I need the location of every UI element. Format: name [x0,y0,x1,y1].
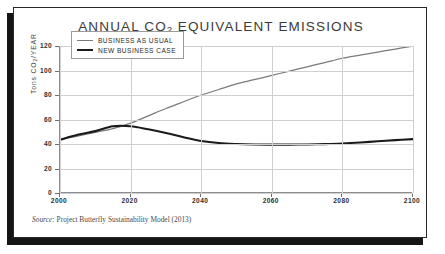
y-tick-label: 20 [26,165,52,172]
legend-item-label: NEW BUSINESS CASE [98,47,176,54]
x-tick-label: 2100 [392,197,432,204]
chart-card: ANNUAL CO2 EQUIVALENT EMISSIONS Tons CO2… [13,7,427,238]
gridline-horizontal [60,169,413,170]
source-note: Source: Project Butterfly Sustainability… [32,215,191,224]
gridline-vertical [60,46,61,193]
source-text: Project Butterfly Sustainability Model (… [57,215,192,224]
legend-swatch-icon [77,49,93,51]
gridline-vertical [413,46,414,193]
source-label: Source: [32,215,55,224]
plot-wrapper [59,46,412,193]
plot-area [59,46,412,193]
y-tick-label: 40 [26,140,52,147]
y-tick-label: 120 [26,42,52,49]
gridline-vertical [272,46,273,193]
gridline-horizontal [60,71,413,72]
chart-legend: BUSINESS AS USUALNEW BUSINESS CASE [71,31,184,59]
gridline-horizontal [60,95,413,96]
x-tick-label: 2040 [180,197,220,204]
chart-page: ANNUAL CO2 EQUIVALENT EMISSIONS Tons CO2… [0,0,445,254]
y-tick-label: 60 [26,116,52,123]
gridline-horizontal [60,193,413,194]
legend-swatch-icon [77,40,93,41]
gridline-horizontal [60,120,413,121]
y-axis-label-subscript: 2 [32,58,38,62]
gridline-vertical [131,46,132,193]
y-tick-label: 80 [26,91,52,98]
legend-item[interactable]: BUSINESS AS USUAL [77,35,176,45]
x-tick-label: 2060 [251,197,291,204]
y-tick-label: 100 [26,67,52,74]
y-tick-label: 0 [26,189,52,196]
gridline-vertical [201,46,202,193]
legend-item-label: BUSINESS AS USUAL [98,37,173,44]
title-suffix: EQUIVALENT EMISSIONS [173,19,364,34]
x-tick-label: 2000 [39,197,79,204]
x-tick-label: 2020 [110,197,150,204]
gridline-vertical [342,46,343,193]
legend-item[interactable]: NEW BUSINESS CASE [77,45,176,55]
gridline-horizontal [60,144,413,145]
x-tick-label: 2080 [321,197,361,204]
